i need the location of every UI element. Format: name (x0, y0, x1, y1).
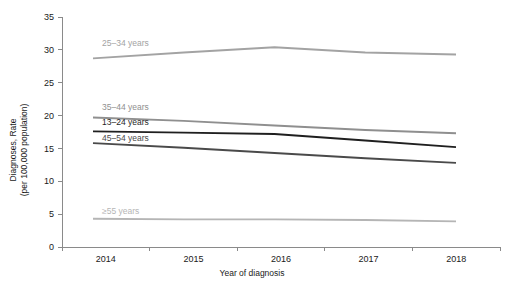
series-label: ≥55 years (102, 206, 139, 216)
y-tick-label: 5 (49, 209, 54, 219)
x-tick-label: 2018 (446, 254, 466, 264)
x-tick-label: 2016 (271, 254, 291, 264)
series-line (93, 219, 456, 222)
y-tick-label: 20 (44, 111, 54, 121)
series-line (93, 143, 456, 163)
x-axis-title: Year of diagnosis (220, 268, 285, 278)
y-tick-label: 30 (44, 45, 54, 55)
series-labels-group: 25–34 years35–44 years13–24 years45–54 y… (102, 38, 149, 216)
y-tick-label: 0 (49, 242, 54, 252)
chart-svg: 05101520253035 20142015201620172018 25–3… (0, 0, 505, 291)
series-label: 25–34 years (102, 38, 149, 48)
line-chart: 05101520253035 20142015201620172018 25–3… (0, 0, 505, 291)
y-tick-label: 15 (44, 144, 54, 154)
y-tick-label: 10 (44, 176, 54, 186)
x-tick-label: 2015 (183, 254, 203, 264)
series-label: 35–44 years (102, 102, 149, 112)
series-label: 45–54 years (102, 133, 149, 143)
x-tick-label: 2014 (96, 254, 116, 264)
y-axis-title-line2: (per 100,000 population) (19, 104, 29, 197)
y-tick-label: 35 (44, 12, 54, 22)
series-label: 13–24 years (102, 117, 149, 127)
x-tick-label: 2017 (359, 254, 379, 264)
y-axis-ticks: 05101520253035 (44, 12, 62, 252)
y-axis-title-line1: Diagnoses, Rate (8, 118, 18, 181)
x-axis-ticks: 20142015201620172018 (62, 247, 500, 264)
series-line (93, 47, 456, 58)
y-tick-label: 25 (44, 78, 54, 88)
